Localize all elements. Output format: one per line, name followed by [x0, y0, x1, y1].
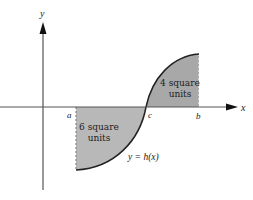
- point-c-label: c: [148, 110, 152, 120]
- point-a-label: a: [67, 110, 72, 120]
- y-axis-arrow-icon: [40, 22, 47, 34]
- region-right-label-line1: 4 square: [160, 78, 200, 88]
- region-left-label-line1: 6 square: [79, 122, 119, 132]
- x-axis-arrow-icon: [226, 104, 238, 111]
- diagram-canvas: y x a c b 6 square units 4 square units …: [0, 0, 253, 200]
- curve-label: y = h(x): [127, 152, 159, 163]
- region-left-label-line2: units: [88, 133, 111, 143]
- point-b-label: b: [196, 111, 201, 121]
- region-right-label-line2: units: [169, 89, 192, 99]
- x-axis-label: x: [240, 102, 246, 113]
- y-axis-label: y: [39, 8, 45, 19]
